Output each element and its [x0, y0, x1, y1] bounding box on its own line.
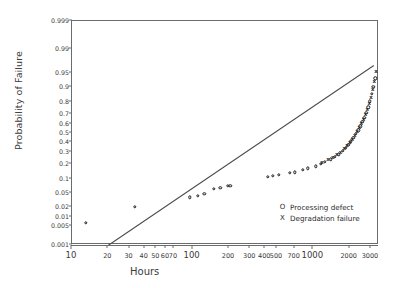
x-axis-tick-label: 60 [161, 252, 169, 260]
circle-marker-icon: O [279, 202, 286, 213]
legend-item: XDegradation failure [279, 213, 360, 224]
legend-item-label: Degradation failure [290, 213, 360, 224]
x-axis-tick-mark [155, 245, 156, 248]
x-axis-tick-mark [276, 245, 277, 248]
x-axis-tick-label: 500 [270, 252, 282, 260]
x-axis-tick-label: 40 [140, 252, 148, 260]
x-axis-tick-mark [107, 245, 108, 248]
x-axis-tick-mark [369, 245, 370, 248]
x-axis-tick-label: 10 [66, 250, 77, 260]
x-axis-tick-mark [164, 245, 165, 248]
x-axis-tick-mark [348, 245, 349, 248]
x-axis-tick-mark [249, 245, 250, 248]
cross-marker-icon: X [279, 213, 286, 224]
x-axis-tick-label: 1000 [302, 250, 324, 260]
x-axis-tick-label: 70 [169, 252, 177, 260]
x-axis-title: Hours [130, 266, 159, 277]
chart-legend: OProcessing defectXDegradation failure [279, 202, 360, 224]
x-axis-tick-label: 200 [222, 252, 234, 260]
x-axis-tick-mark [264, 245, 265, 248]
x-axis-tick-mark [128, 245, 129, 248]
x-axis-tick-label: 700 [287, 252, 299, 260]
x-axis-tick-label: 50 [151, 252, 159, 260]
x-axis-tick-mark [312, 245, 313, 249]
x-axis-tick-mark [227, 245, 228, 248]
x-axis-tick-mark [71, 245, 72, 249]
x-axis-tick-group: 1020304050607010020030040050070010002000… [0, 0, 403, 288]
x-axis-tick-label: 20 [103, 252, 111, 260]
x-axis-tick-label: 2000 [340, 252, 357, 260]
legend-item: OProcessing defect [279, 202, 360, 213]
x-axis-tick-label: 100 [184, 250, 200, 260]
x-axis-tick-mark [293, 245, 294, 248]
x-axis-tick-mark [172, 245, 173, 248]
x-axis-tick-mark [143, 245, 144, 248]
x-axis-tick-label: 300 [243, 252, 255, 260]
probability-plot-figure: Probability of Failure 0.9990.990.950.90… [0, 0, 403, 288]
legend-item-label: Processing defect [290, 202, 353, 213]
x-axis-tick-label: 30 [124, 252, 132, 260]
x-axis-tick-label: 400 [258, 252, 270, 260]
x-axis-tick-label: 3000 [362, 252, 379, 260]
x-axis-tick-mark [191, 245, 192, 249]
